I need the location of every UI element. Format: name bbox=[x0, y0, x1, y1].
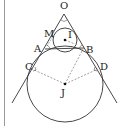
label-c: C bbox=[25, 62, 33, 72]
segment-ab bbox=[45, 48, 84, 49]
label-o: O bbox=[60, 1, 68, 11]
label-a: A bbox=[34, 44, 41, 54]
label-m: M bbox=[44, 29, 54, 39]
label-j: J bbox=[61, 88, 65, 98]
center-j-dot bbox=[64, 83, 67, 86]
angle-mark-o bbox=[61, 20, 67, 22]
right-tangent-line bbox=[64, 14, 117, 103]
label-i: I bbox=[68, 30, 72, 40]
center-i-dot bbox=[64, 39, 67, 42]
dashed-jb bbox=[65, 49, 83, 84]
angle-mark-a bbox=[47, 45, 50, 49]
left-tangent-line bbox=[12, 14, 64, 103]
dashed-jd bbox=[65, 69, 98, 84]
label-d: D bbox=[100, 62, 108, 72]
dashed-ib bbox=[65, 40, 75, 44]
dashed-jc bbox=[32, 69, 65, 84]
right-angle-c bbox=[33, 67, 36, 71]
geometry-diagram bbox=[0, 0, 131, 126]
label-b: B bbox=[86, 45, 93, 55]
